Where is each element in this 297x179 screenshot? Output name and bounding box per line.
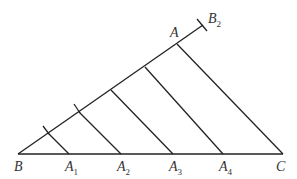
label-A: A (170, 26, 179, 40)
label-C: C (276, 160, 285, 174)
label-A2: A2 (117, 160, 130, 177)
parallel-A3 (111, 90, 173, 154)
segment-AC (177, 44, 283, 154)
label-B2: B2 (208, 12, 221, 29)
label-A4: A4 (219, 160, 232, 177)
diagram-canvas (0, 0, 297, 179)
tick-B2 (197, 19, 207, 31)
ray-BB2 (18, 25, 203, 154)
tick-1 (43, 126, 49, 134)
label-A1: A1 (65, 160, 78, 177)
parallel-A2 (79, 112, 121, 154)
parallel-A1 (48, 133, 69, 154)
tick-2 (74, 104, 80, 113)
geometry-diagram: B A1 A2 A3 A4 C A B2 (0, 0, 297, 179)
label-B: B (14, 160, 23, 174)
label-A3: A3 (169, 160, 182, 177)
